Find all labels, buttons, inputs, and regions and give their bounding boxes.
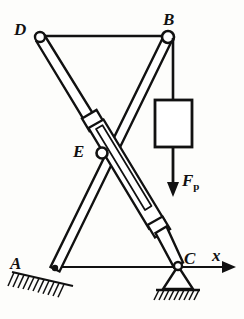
label-force: Fp bbox=[182, 172, 199, 192]
engineering-diagram: A B C D E x Fp bbox=[0, 0, 244, 319]
member-cylinder-DC bbox=[37, 36, 184, 268]
x-axis-arrowhead bbox=[222, 261, 236, 273]
label-x-axis: x bbox=[212, 247, 221, 264]
force-symbol: F bbox=[182, 171, 193, 190]
support-C-hatching bbox=[154, 290, 199, 300]
label-point-a: A bbox=[10, 255, 21, 272]
x-axis bbox=[52, 261, 236, 273]
label-point-b: B bbox=[163, 11, 174, 28]
joint-E-pivot bbox=[97, 148, 108, 159]
load-block bbox=[155, 100, 192, 147]
joint-C-pin bbox=[174, 262, 182, 270]
force-arrow-head bbox=[167, 182, 179, 197]
force-subscript: p bbox=[193, 180, 199, 192]
support-A-hatching bbox=[8, 273, 64, 298]
joint-A-pin bbox=[52, 265, 58, 271]
joint-D bbox=[35, 32, 45, 42]
label-point-c: C bbox=[184, 250, 195, 267]
diagram-canvas bbox=[0, 0, 244, 319]
cylinder-upper-rod bbox=[37, 36, 95, 122]
label-point-d: D bbox=[14, 21, 26, 38]
label-point-e: E bbox=[73, 143, 84, 160]
